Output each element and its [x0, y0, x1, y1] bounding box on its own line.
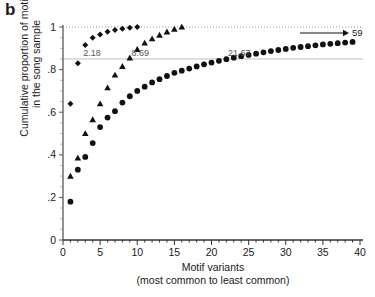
x-axis-ticks: 0510152025303540	[60, 240, 366, 258]
annotation-a1: 2.18	[83, 48, 101, 58]
data-point	[275, 47, 281, 53]
data-point	[105, 29, 111, 35]
data-point	[320, 42, 326, 48]
data-point	[127, 93, 133, 99]
x-tick-label-15: 15	[169, 246, 181, 258]
annotation-a2: 8.69	[132, 48, 150, 58]
data-point	[164, 73, 170, 79]
data-point	[171, 26, 178, 32]
data-point	[186, 66, 192, 72]
data-point	[112, 27, 118, 33]
data-point	[342, 40, 348, 46]
data-point	[313, 42, 319, 48]
data-point	[90, 140, 96, 146]
data-point	[67, 173, 74, 179]
data-point	[112, 72, 119, 78]
data-point	[216, 58, 222, 64]
data-point	[157, 76, 163, 82]
x-tick-label-40: 40	[354, 246, 366, 258]
series-3-circle	[68, 39, 356, 205]
data-point	[350, 39, 356, 45]
data-point	[194, 64, 200, 70]
x-tick-label-35: 35	[317, 246, 329, 258]
axis-lines	[63, 25, 363, 240]
data-point	[209, 60, 215, 66]
data-point	[75, 60, 81, 66]
data-point	[179, 68, 185, 74]
figure-panel-b: b Cumulative proportion of motifs in the…	[0, 0, 375, 297]
data-point	[201, 61, 207, 67]
data-point	[97, 100, 104, 106]
y-tick-label-p4: .4	[47, 148, 56, 160]
data-point	[104, 84, 111, 90]
data-point	[261, 49, 267, 55]
data-point	[164, 29, 171, 35]
data-point	[82, 154, 88, 160]
y-axis-ticks: 0.2.4.6.81	[47, 21, 63, 246]
data-point	[298, 44, 304, 50]
data-point	[171, 70, 177, 76]
data-point	[105, 115, 111, 121]
y-tick-label-p8: .8	[47, 63, 56, 75]
y-tick-label-p2: .2	[47, 191, 56, 203]
data-point	[82, 42, 88, 48]
x-tick-label-20: 20	[206, 246, 218, 258]
annotation-a3: 21.67	[228, 48, 251, 58]
data-point	[119, 63, 126, 69]
data-series-layer	[67, 24, 355, 205]
data-point	[149, 35, 156, 41]
data-point	[134, 88, 140, 94]
x-tick-label-0: 0	[60, 246, 66, 258]
data-point	[82, 130, 89, 136]
x-tick-label-30: 30	[280, 246, 292, 258]
data-point	[179, 24, 186, 30]
data-point	[134, 24, 140, 30]
data-point	[283, 46, 289, 52]
x-tick-label-25: 25	[243, 246, 255, 258]
y-tick-label-0: 0	[50, 234, 56, 246]
data-point	[75, 167, 81, 173]
data-point	[97, 31, 103, 37]
data-point	[75, 155, 82, 161]
y-tick-label-p6: .6	[47, 106, 56, 118]
x-tick-label-10: 10	[131, 246, 143, 258]
data-point	[305, 43, 311, 49]
data-point	[67, 101, 73, 107]
data-point	[127, 25, 133, 31]
data-point	[120, 100, 126, 106]
data-point	[268, 48, 274, 54]
annotation-arrow-label: 59	[352, 27, 363, 38]
data-point	[112, 108, 118, 114]
data-point	[327, 41, 333, 47]
data-point	[149, 79, 155, 85]
data-point	[335, 40, 341, 46]
data-point	[142, 84, 148, 90]
data-point	[89, 116, 96, 122]
data-point	[156, 32, 163, 38]
data-point	[253, 51, 259, 57]
data-point	[90, 35, 96, 41]
y-tick-label-1: 1	[50, 21, 56, 33]
data-point	[97, 124, 103, 130]
data-point	[141, 40, 148, 46]
plot-area: 0510152025303540 0.2.4.6.81 2.188.6921.6…	[0, 0, 375, 297]
data-point	[68, 199, 74, 205]
data-point	[290, 45, 296, 51]
x-tick-label-5: 5	[97, 246, 103, 258]
